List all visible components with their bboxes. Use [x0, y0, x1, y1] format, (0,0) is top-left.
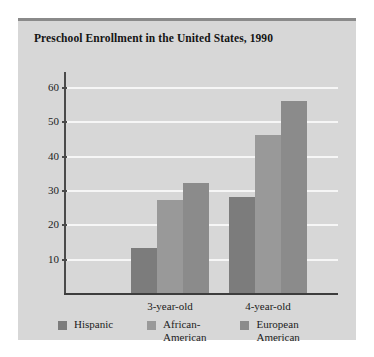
y-tick-mark [62, 87, 67, 89]
y-tick-label: 50 [48, 115, 59, 127]
bar-3-year-old-Hispanic [131, 248, 157, 293]
y-tick-label: 30 [48, 184, 59, 196]
y-axis-line [64, 72, 66, 295]
legend-item: African- American [147, 318, 206, 344]
legend-item: Hispanic [58, 318, 113, 344]
bar-4-year-old-African-American [255, 135, 281, 293]
legend-swatch-icon [147, 321, 156, 330]
chart-legend: HispanicAfrican- AmericanEuropean Americ… [58, 318, 338, 344]
bar-4-year-old-Hispanic [229, 197, 255, 293]
bar-3-year-old-EuropeanAmerican [183, 183, 209, 293]
x-axis-line [64, 293, 338, 295]
gridline: 60 [66, 87, 338, 89]
y-tick-mark [62, 156, 67, 158]
y-tick-mark [62, 121, 67, 123]
legend-label: Hispanic [74, 318, 113, 331]
y-tick-label: 20 [48, 218, 59, 230]
legend-swatch-icon [58, 321, 67, 330]
chart-figure: Preschool Enrollment in the United State… [18, 18, 356, 340]
plot-area: 102030405060 3-year-old4-year-old [64, 72, 332, 295]
legend-label: European American [256, 318, 299, 344]
legend-item: European American [240, 318, 299, 344]
bar-3-year-old-African-American [157, 200, 183, 293]
y-tick-label: 10 [48, 252, 59, 264]
y-tick-mark [62, 224, 67, 226]
y-tick-mark [62, 259, 67, 261]
y-tick-label: 60 [48, 81, 59, 93]
x-tick-label: 3-year-old [147, 300, 193, 312]
chart-title: Preschool Enrollment in the United State… [34, 32, 273, 44]
y-tick-mark [62, 190, 67, 192]
y-tick-label: 40 [48, 150, 59, 162]
legend-swatch-icon [240, 321, 249, 330]
x-tick-label: 4-year-old [245, 300, 291, 312]
legend-label: African- American [163, 318, 206, 344]
bar-4-year-old-EuropeanAmerican [281, 101, 307, 293]
